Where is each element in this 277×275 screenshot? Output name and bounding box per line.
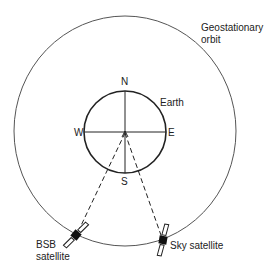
compass-east: E xyxy=(168,127,175,139)
bsb-label-line1: BSB xyxy=(36,239,70,251)
compass-south: S xyxy=(121,176,128,188)
bsb-sightline xyxy=(77,133,125,234)
orbit-label: Geostationary orbit xyxy=(201,22,263,46)
bsb-satellite-label: BSB satellite xyxy=(36,239,70,263)
sky-sightline xyxy=(125,133,162,238)
compass-west: W xyxy=(74,127,83,139)
compass-north: N xyxy=(121,76,128,88)
earth-label: Earth xyxy=(160,97,184,109)
orbit-label-line2: orbit xyxy=(201,34,263,46)
orbit-label-line1: Geostationary xyxy=(201,22,263,34)
sky-satellite-label: Sky satellite xyxy=(170,240,223,252)
sky-satellite-icon xyxy=(156,224,169,257)
bsb-label-line2: satellite xyxy=(36,251,70,263)
